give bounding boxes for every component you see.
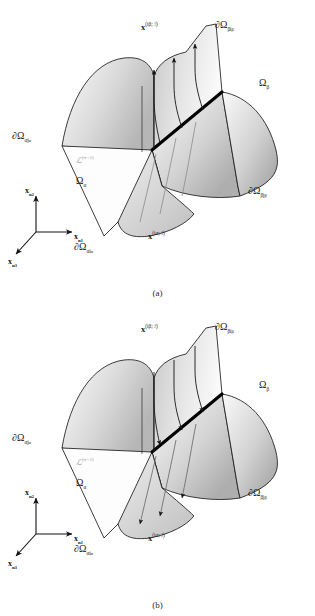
axis-label-diagonal-b: xn3 <box>8 559 17 570</box>
axes-triad-b <box>16 498 72 556</box>
label-bottom-boundary-a: ∂Ωαiα <box>74 242 93 254</box>
label-left-boundary-b: ∂Ωαjα <box>12 433 31 445</box>
figure-root: x(iβ; ℐ) ∂Ωβiβ Ωβ ∂Ωαjα ℒ(n−2) Ωα ∂Ωβjβ … <box>0 0 315 616</box>
label-bottom-boundary-b: ∂Ωαiα <box>74 544 93 556</box>
axis-label-diagonal-a: xn3 <box>8 257 17 268</box>
panel-b: x(iβ; ℐ) ∂Ωβiβ Ωβ ∂Ωαjα ℒ(n−2) Ωα ∂Ωβjβ … <box>0 302 315 602</box>
surface-alpha-upper <box>62 58 154 152</box>
panel-a-graphic <box>0 0 315 290</box>
label-left-boundary-a: ∂Ωαjα <box>12 131 31 143</box>
surface-alpha-upper <box>62 360 154 454</box>
label-region-alpha-b: Ωα <box>76 478 86 490</box>
axis-label-vertical-b: xn2 <box>25 488 34 499</box>
label-interface-b: ℒ(n−2) <box>76 458 94 467</box>
panel-a: x(iβ; ℐ) ∂Ωβiβ Ωβ ∂Ωαjα ℒ(n−2) Ωα ∂Ωβjβ … <box>0 0 315 300</box>
panel-b-graphic <box>0 302 315 592</box>
label-region-beta-a: Ωβ <box>259 78 269 90</box>
label-bottom-flux-a: x(iα; ℐ) <box>148 231 165 240</box>
axis-label-vertical-a: xn2 <box>25 186 34 197</box>
label-region-alpha-a: Ωα <box>76 176 86 188</box>
axes-triad-a <box>16 196 72 254</box>
label-right-boundary-a: ∂Ωβjβ <box>248 186 267 198</box>
label-region-beta-b: Ωβ <box>259 380 269 392</box>
label-top-flux-b: x(iβ; ℐ) <box>141 324 158 333</box>
label-top-boundary-a: ∂Ωβiβ <box>215 20 234 32</box>
label-interface-a: ℒ(n−2) <box>76 156 94 165</box>
label-right-boundary-b: ∂Ωβjβ <box>248 488 267 500</box>
caption-a: (a) <box>0 288 315 298</box>
label-bottom-flux-b: x(iα; ℐ) <box>148 533 165 542</box>
label-top-flux-a: x(iβ; ℐ) <box>141 22 158 31</box>
axis-label-horizontal-a: xn1 <box>74 232 83 243</box>
axis-label-horizontal-b: xn1 <box>74 534 83 545</box>
caption-b: (b) <box>0 600 315 610</box>
label-top-boundary-b: ∂Ωβiβ <box>215 322 234 334</box>
